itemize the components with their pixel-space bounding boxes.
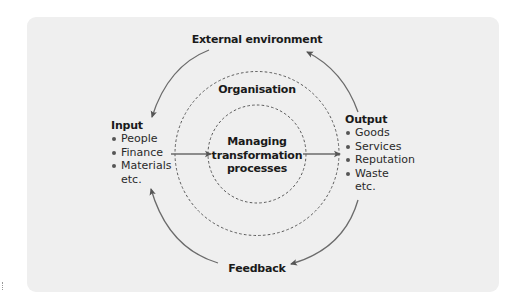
list-trailing: etc. — [345, 180, 415, 193]
input-list: People Finance Materials etc. — [111, 132, 171, 186]
output-list: Goods Services Reputation Waste etc. — [345, 126, 415, 193]
input-block: Input People Finance Materials etc. — [111, 119, 171, 186]
list-item: Goods — [345, 126, 415, 139]
arc-output-to-feedback — [291, 200, 358, 264]
feedback-label: Feedback — [0, 262, 514, 275]
organisation-label: Organisation — [0, 83, 514, 96]
list-trailing: etc. — [111, 173, 171, 186]
external-environment-label: External environment — [0, 33, 514, 46]
list-item: Reputation — [345, 153, 415, 166]
center-line-2: transformation — [207, 149, 307, 163]
list-item: Services — [345, 140, 415, 153]
arc-output-to-environment — [307, 52, 358, 112]
center-label: Managing transformation processes — [207, 135, 307, 176]
arc-feedback-to-input — [151, 189, 218, 263]
center-line-1: Managing — [207, 135, 307, 149]
list-item: Waste — [345, 167, 415, 180]
list-item: Materials — [111, 159, 171, 172]
center-line-3: processes — [207, 162, 307, 176]
diagram-canvas: External environment Organisation Managi… — [0, 0, 521, 306]
input-heading: Input — [111, 119, 171, 132]
output-heading: Output — [345, 113, 415, 126]
list-item: People — [111, 132, 171, 145]
list-item: Finance — [111, 146, 171, 159]
output-block: Output Goods Services Reputation Waste e… — [345, 113, 415, 193]
edge-artifact — [2, 282, 5, 290]
